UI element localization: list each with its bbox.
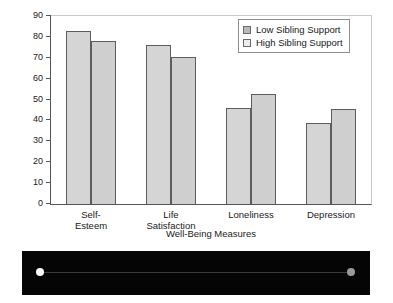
y-axis-tick-label: 40 (33, 115, 43, 124)
x-axis-title: Well-Being Measures (50, 228, 372, 239)
x-axis-category-label: Depression (306, 209, 356, 220)
grouped-bar-chart: Percent 0102030405060708090 Self-EsteemL… (0, 0, 393, 243)
artifact-line (40, 272, 352, 273)
y-axis-tick-label: 70 (33, 53, 43, 62)
bar-high-support (331, 109, 356, 204)
legend-item-high: High Sibling Support (243, 36, 343, 49)
bar-low-support (146, 45, 171, 204)
y-axis-tick-label: 10 (33, 178, 43, 187)
y-axis-tick-label: 50 (33, 95, 43, 104)
bar-low-support (306, 123, 331, 204)
y-axis-tick-label: 30 (33, 136, 43, 145)
high-support-swatch-icon (243, 39, 251, 47)
bar-low-support (226, 108, 251, 204)
bar-group: Life Satisfaction (146, 16, 196, 204)
artifact-right-dot-icon (347, 268, 355, 276)
x-axis-category-label: Loneliness (226, 209, 276, 220)
y-axis-tick-label: 0 (38, 199, 43, 208)
bar-high-support (251, 94, 276, 204)
legend-label-high: High Sibling Support (256, 37, 343, 48)
y-axis-tick-label: 80 (33, 32, 43, 41)
artifact-left-dot-icon (36, 268, 44, 276)
bar-high-support (91, 41, 116, 204)
bar-group: Self-Esteem (66, 16, 116, 204)
y-axis-tick-label: 60 (33, 74, 43, 83)
bar-low-support (66, 31, 91, 204)
scan-artifact-strip (22, 251, 370, 295)
y-axis-tick-label: 20 (33, 157, 43, 166)
bar-high-support (171, 57, 196, 204)
legend-item-low: Low Sibling Support (243, 23, 343, 36)
low-support-swatch-icon (243, 26, 251, 34)
chart-legend: Low Sibling Support High Sibling Support (238, 19, 350, 53)
legend-label-low: Low Sibling Support (256, 24, 341, 35)
figure: Percent 0102030405060708090 Self-EsteemL… (0, 0, 393, 303)
y-axis-tick-label: 90 (33, 11, 43, 20)
